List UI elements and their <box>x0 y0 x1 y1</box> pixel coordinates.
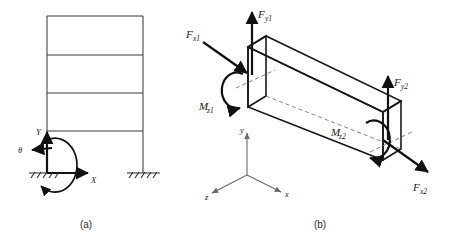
triad-z-arrow <box>212 175 247 193</box>
svg-text:F: F <box>257 8 265 20</box>
svg-text:x2: x2 <box>419 187 427 196</box>
figure-root: Y X θ (a) F <box>0 0 453 249</box>
svg-text:x1: x1 <box>192 34 200 43</box>
svg-text:z2: z2 <box>338 132 346 141</box>
svg-text:y1: y1 <box>264 14 272 23</box>
local-axes-triad: y x z <box>204 125 289 202</box>
svg-text:F: F <box>393 76 401 88</box>
technical-figure: Y X θ (a) F <box>0 0 453 249</box>
svg-text:F: F <box>412 181 420 193</box>
axis-y-label: Y <box>36 127 42 137</box>
axis-theta-arrow <box>32 148 52 150</box>
svg-text:z1: z1 <box>206 106 214 115</box>
force-fx1-label: F x1 <box>185 28 200 43</box>
force-fx2-label: F x2 <box>412 181 427 196</box>
beam-left-end-face <box>248 36 266 107</box>
panel-a-frame: Y X θ (a) <box>18 16 160 230</box>
beam-axis-dash-node2 <box>370 132 412 152</box>
axis-x-label: X <box>90 175 97 185</box>
panel-b-beam-element: F y1 F x1 M z1 F y2 <box>185 8 428 230</box>
caption-a: (a) <box>80 219 92 230</box>
triad-x-label: x <box>284 189 289 199</box>
force-fy2-label: F y2 <box>393 76 408 91</box>
moment-mz2-label: M z2 <box>330 126 346 141</box>
triad-x-arrow <box>247 175 281 192</box>
force-fy1-label: F y1 <box>257 8 272 23</box>
beam-top-face <box>248 36 401 112</box>
axis-theta-label: θ <box>18 145 22 155</box>
support-fixed-right <box>127 172 160 178</box>
moment-mz1-label: M z1 <box>198 100 214 115</box>
svg-text:y2: y2 <box>400 82 408 91</box>
beam-near-side-face <box>248 47 383 160</box>
caption-b: (b) <box>314 219 326 230</box>
force-fx1-arrow <box>203 42 247 73</box>
triad-z-label: z <box>204 192 209 202</box>
triad-y-label: y <box>239 125 244 135</box>
svg-text:F: F <box>185 28 193 40</box>
moment-mz1-arc <box>222 72 243 108</box>
